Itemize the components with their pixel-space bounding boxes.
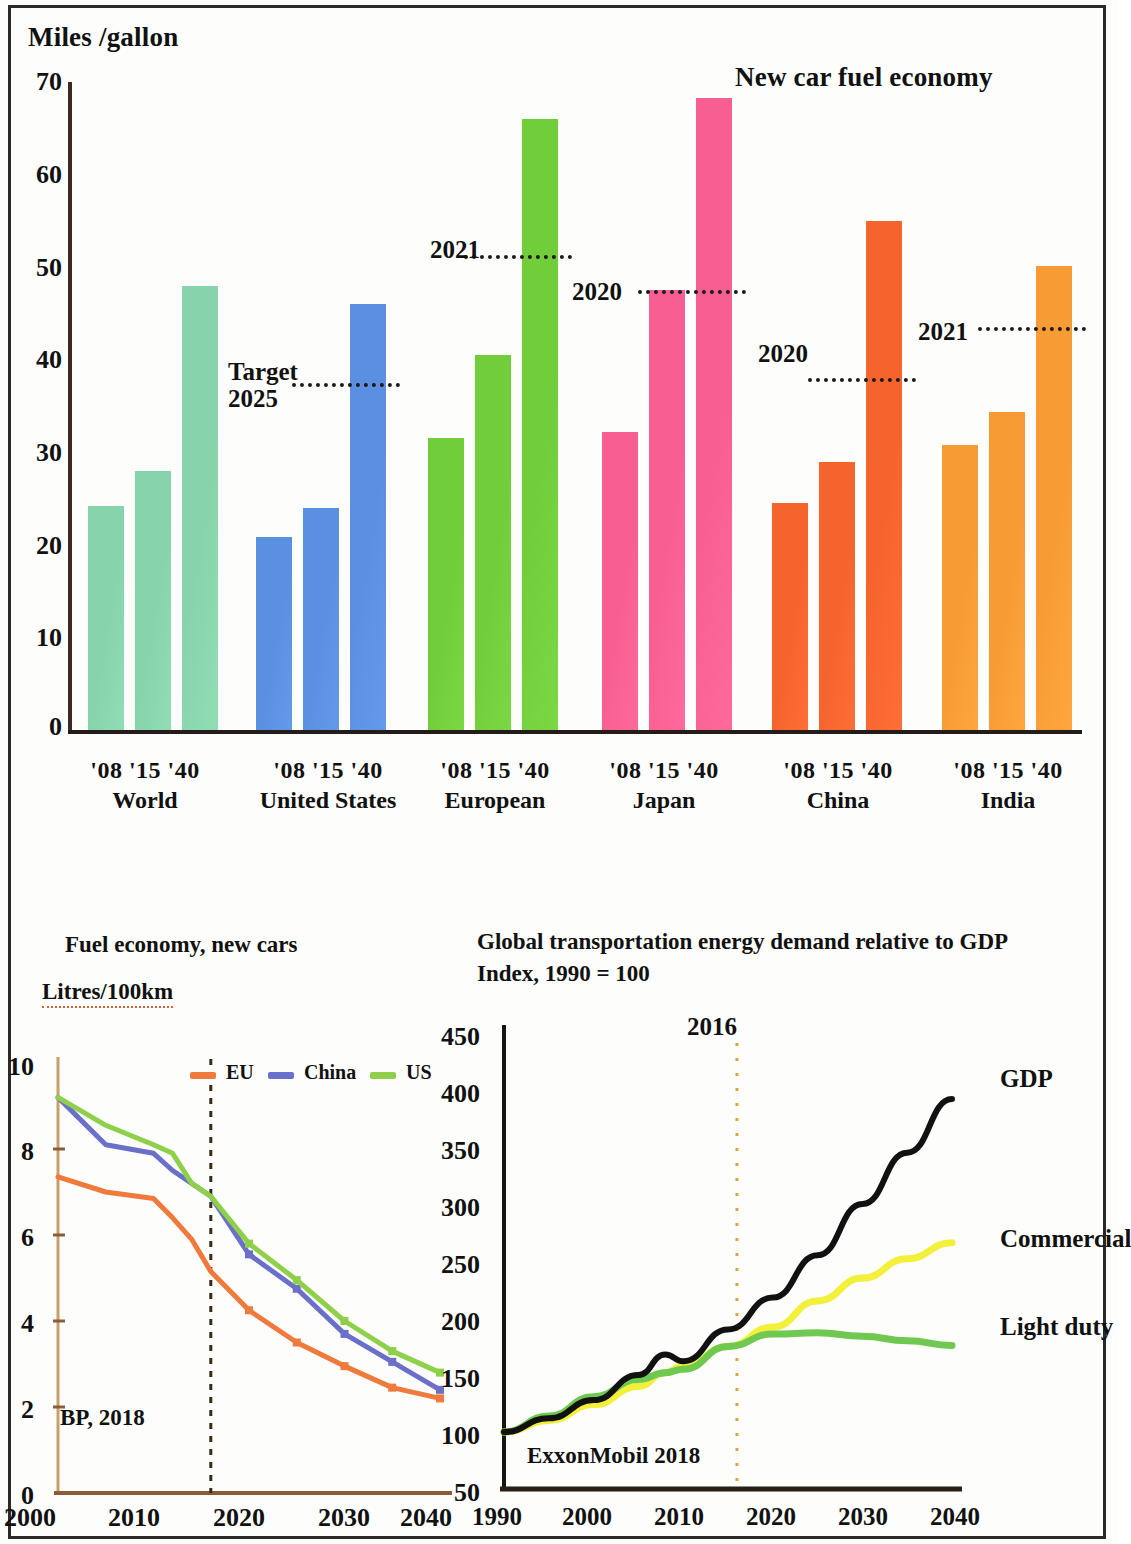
right-series-light-duty [504,1333,952,1432]
right-ytick-450: 450 [418,1022,480,1052]
bar-japan-08 [602,432,638,730]
right-ytick-50: 50 [418,1478,480,1508]
right-xtick-2000: 2000 [562,1503,612,1531]
series-label-commercial: Commercial [1000,1225,1131,1253]
left-ytick-4: 4 [0,1309,34,1339]
right-ytick-350: 350 [418,1136,480,1166]
bar-world-15 [135,471,171,730]
bar-group-years-united-states: '08 '15 '40 [228,755,428,785]
left-marker-us-2035 [388,1347,396,1355]
target-label-japan: 2020 [572,278,622,305]
left-ytick-10: 10 [0,1052,34,1082]
bar-china-15 [819,462,855,730]
bar-japan-40 [696,98,732,730]
left-marker-china-2035 [388,1358,396,1366]
bar-china-08 [772,503,808,730]
target-line-united-states [292,383,400,387]
right-ytick-200: 200 [418,1307,480,1337]
target-line-china [808,378,916,382]
right-xtick-2030: 2030 [838,1503,888,1531]
bar-group-years-india: '08 '15 '40 [918,755,1098,785]
right-chart-title-line1: Global transportation energy demand rela… [477,929,1008,955]
legend-label-eu: EU [226,1061,254,1084]
bar-india-08 [942,445,978,730]
fuel-economy-new-cars-line-chart: Fuel economy, new cars Litres/100km 10 8… [0,905,470,1544]
bar-group-label-european: '08 '15 '40 European [400,755,590,815]
bar-group-label-japan: '08 '15 '40 Japan [574,755,754,815]
bar-group-years-world: '08 '15 '40 [60,755,230,785]
left-series-us [58,1097,440,1372]
right-ytick-400: 400 [418,1079,480,1109]
left-marker-eu-2025 [293,1339,301,1347]
bar-united-states-08 [256,537,292,730]
bar-japan-15 [649,290,685,730]
bar-united-states-40 [350,304,386,730]
bar-group-years-japan: '08 '15 '40 [574,755,754,785]
bar-world-40 [182,286,218,730]
bar-group-name-india: India [918,785,1098,815]
right-chart-source: ExxonMobil 2018 [527,1443,700,1469]
target-label-india: 2021 [918,318,968,345]
bar-group-name-japan: Japan [574,785,754,815]
series-label-gdp: GDP [1000,1065,1053,1093]
right-chart-annotation-2016: 2016 [687,1013,737,1041]
bar-group-name-european: European [400,785,590,815]
left-xtick-2000: 2000 [4,1503,56,1533]
bar-group-name-china: China [748,785,928,815]
bar-india-15 [989,412,1025,730]
right-xtick-1990: 1990 [472,1503,522,1531]
right-ytick-300: 300 [418,1193,480,1223]
bar-chart-plot-area [0,0,1117,734]
target-line-india [978,327,1086,331]
left-marker-eu-2020 [245,1306,253,1314]
bar-united-states-15 [303,508,339,730]
legend-label-china: China [304,1061,356,1084]
right-xtick-2020: 2020 [746,1503,796,1531]
bar-group-name-united-states: United States [228,785,428,815]
target-label-united-states: Target 2025 [228,358,298,412]
right-chart-title-line2: Index, 1990 = 100 [477,961,650,987]
target-line-japan [638,290,746,294]
left-marker-eu-2035 [388,1384,396,1392]
left-xtick-2010: 2010 [108,1503,160,1533]
left-marker-china-2030 [341,1330,349,1338]
legend-swatch-us [370,1072,396,1079]
left-marker-us-2030 [341,1317,349,1325]
target-label-china: 2020 [758,340,808,367]
right-ytick-250: 250 [418,1250,480,1280]
left-marker-china-2025 [293,1285,301,1293]
left-marker-us-2025 [293,1276,301,1284]
bar-india-40 [1036,266,1072,730]
bar-group-label-india: '08 '15 '40 India [918,755,1098,815]
legend-swatch-china [268,1072,294,1079]
right-ytick-100: 100 [418,1421,480,1451]
bar-china-40 [866,221,902,730]
bar-group-label-united-states: '08 '15 '40 United States [228,755,428,815]
bar-group-name-world: World [60,785,230,815]
bar-european-15 [475,355,511,730]
target-line-european [464,255,572,259]
left-chart-title: Fuel economy, new cars [65,932,298,958]
bar-european-08 [428,438,464,730]
series-label-light-duty: Light duty [1000,1313,1113,1341]
global-transport-energy-demand-line-chart: Global transportation energy demand rela… [432,905,1117,1544]
left-xtick-2020: 2020 [213,1503,265,1533]
left-ytick-8: 8 [0,1137,34,1167]
left-ytick-6: 6 [0,1223,34,1253]
right-ytick-150: 150 [418,1364,480,1394]
left-xtick-2030: 2030 [318,1503,370,1533]
left-marker-eu-2030 [341,1362,349,1370]
bar-european-40 [522,119,558,730]
bar-world-08 [88,506,124,730]
bar-group-years-china: '08 '15 '40 [748,755,928,785]
legend-swatch-eu [190,1072,216,1079]
new-car-fuel-economy-bar-chart: Miles /gallon New car fuel economy 70 60… [0,0,1117,840]
bar-group-label-china: '08 '15 '40 China [748,755,928,815]
bar-group-label-world: '08 '15 '40 World [60,755,230,815]
target-label-european: 2021 [430,236,480,263]
left-ytick-2: 2 [0,1395,34,1425]
right-xtick-2040: 2040 [930,1503,980,1531]
left-marker-us-2020 [245,1240,253,1248]
bar-group-years-european: '08 '15 '40 [400,755,590,785]
right-xtick-2010: 2010 [654,1503,704,1531]
